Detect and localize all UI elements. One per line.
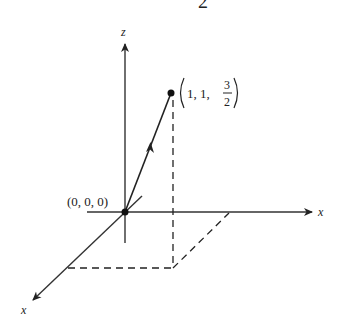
fraction-denominator: 2 [224,95,230,109]
fraction-numerator: 3 [224,78,230,92]
right-axis-label: x [317,205,324,219]
left-paren [181,78,185,108]
coordinate-diagram: 2 z x x (0, 0, 0) 1, 1, 3 2 [0,0,342,332]
vector-direction-arrow [146,142,154,153]
z-axis-label: z [120,25,126,39]
cropped-fraction-fragment: 2 [198,0,208,12]
point-coords-text: 1, 1, [187,86,210,101]
right-paren [234,78,238,108]
terminal-point-label: 1, 1, 3 2 [181,78,238,109]
front-axis-label: x [20,303,27,317]
projection-floor-diagonal [173,213,229,268]
position-vector [125,93,171,212]
terminal-point [168,90,175,97]
origin-point [122,209,129,216]
origin-label: (0, 0, 0) [67,194,108,209]
